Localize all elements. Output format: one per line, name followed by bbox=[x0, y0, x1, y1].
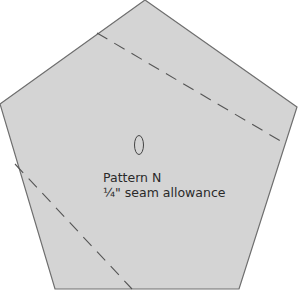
pattern-piece bbox=[0, 0, 302, 301]
pattern-name-label: Pattern N bbox=[103, 170, 161, 185]
pentagon-outline bbox=[0, 0, 297, 289]
seam-allowance-label: ¼" seam allowance bbox=[103, 185, 225, 200]
